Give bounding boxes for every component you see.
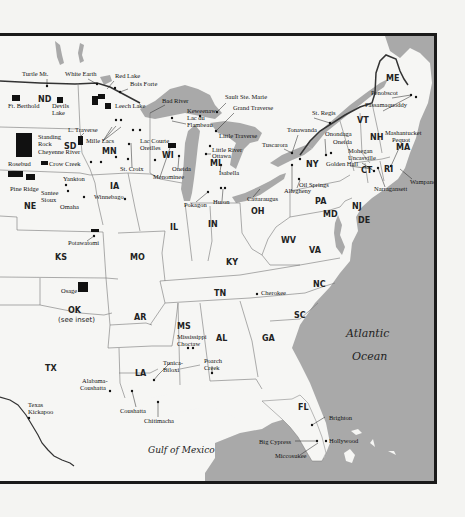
- site-label: Red Lake: [115, 72, 140, 79]
- site-label: Menominee: [153, 173, 184, 180]
- site-label: Bois Forte: [130, 80, 157, 87]
- site-label: Brighton: [329, 414, 353, 421]
- state-label-nj: NJ: [352, 202, 362, 211]
- site-label: Ottawa: [212, 152, 231, 159]
- site-label: Santee: [41, 189, 58, 196]
- site-label: Tonawanda: [287, 126, 317, 133]
- state-label-ny: NY: [306, 160, 319, 169]
- state-label-al: AL: [216, 334, 227, 343]
- site-label: Mille Lacs: [86, 137, 114, 144]
- state-label-il: IL: [170, 223, 178, 232]
- state-label-ky: KY: [226, 258, 238, 267]
- state-label-in: IN: [208, 220, 218, 229]
- site-label: Chitimacha: [144, 417, 174, 424]
- state-label-va: VA: [309, 246, 322, 255]
- site-label: Alabama-: [82, 377, 108, 384]
- site-label: Lac Courte: [140, 137, 169, 144]
- site-label: Big Cypress: [259, 438, 291, 445]
- state-label-wv: WV: [281, 236, 297, 245]
- atlantic-ocean-label-line2: Ocean: [352, 350, 387, 363]
- state-label-ar: AR: [134, 313, 146, 322]
- site-label: Pine Ridge: [10, 185, 39, 192]
- state-label-pa: PA: [315, 197, 327, 206]
- state-label-me: ME: [386, 74, 399, 83]
- site-label: Devils: [52, 102, 69, 109]
- site-label: Coushatta: [80, 384, 106, 391]
- state-label-tx: TX: [45, 364, 57, 373]
- state-label-sc: SC: [294, 311, 306, 320]
- state-label-nh: NH: [370, 133, 383, 142]
- site-label: Penobscot: [371, 89, 398, 96]
- site-label: Winnebago: [94, 193, 124, 200]
- site-label: Turtle Mt.: [22, 70, 49, 77]
- site-label: Miccosukee: [275, 452, 307, 459]
- site-label: Flambeau: [187, 121, 213, 128]
- site-label: Sioux: [41, 196, 57, 203]
- site-label: Mohegan: [348, 147, 373, 154]
- state-label-ri: RI: [384, 165, 393, 174]
- state-label-la: LA: [135, 369, 147, 378]
- site-label: Lac du: [187, 114, 206, 121]
- site-label: L. Traverse: [68, 126, 98, 133]
- gulf-of-mexico-label: Gulf of Mexico: [148, 445, 215, 455]
- site-label: Coushatta: [120, 407, 146, 414]
- state-label-ne: NE: [24, 202, 36, 211]
- site-label: Texas: [28, 401, 44, 408]
- site-label: Omaha: [60, 203, 79, 210]
- atlantic-ocean-label-line1: Atlantic: [345, 327, 389, 340]
- site-label: Grand Traverse: [233, 104, 273, 111]
- lake-winnipeg-south: [78, 43, 84, 63]
- site-label: Lake: [52, 109, 65, 116]
- site-label: Choctaw: [177, 340, 200, 347]
- site-label: Creek: [204, 364, 220, 371]
- site-label: Bad River: [162, 97, 189, 104]
- lake-of-woods: [55, 41, 64, 65]
- state-label-oh: OH: [251, 207, 265, 216]
- chesapeake-bay: [334, 215, 345, 255]
- state-label-ct: CT: [361, 166, 373, 175]
- site-label: Hollywood: [329, 437, 359, 444]
- state-label-mo: MO: [130, 253, 145, 262]
- site-label: Oneida: [172, 165, 191, 172]
- site-label: St. Regis: [312, 109, 336, 116]
- site-label: Narragansett: [374, 185, 407, 192]
- site-label: Rock: [38, 140, 52, 147]
- state-label-vt: VT: [357, 116, 369, 125]
- site-label: Pequot: [392, 136, 410, 143]
- state-label-mn: MN: [102, 147, 117, 156]
- site-label: Oreilles: [140, 144, 161, 151]
- state-label-mi: MI: [210, 159, 221, 168]
- state-label-wi: WI: [162, 151, 174, 160]
- site-label: Crow Creek: [49, 160, 81, 167]
- state-label-ma: MA: [396, 143, 411, 152]
- lake-michigan: [181, 125, 200, 201]
- site-label: Cheyenne River: [38, 148, 81, 155]
- upper-red-lake: [100, 75, 112, 85]
- reservation-areas: [8, 94, 176, 292]
- site-label: Mississippi: [177, 333, 207, 340]
- site-label: Biloxi: [163, 366, 179, 373]
- site-label: Cherokee: [261, 289, 286, 296]
- state-label-ok: OK: [68, 306, 82, 315]
- site-label: Keweenaw: [187, 107, 216, 114]
- site-label: Tuscarora: [262, 141, 288, 148]
- site-label: Standing: [38, 133, 62, 140]
- site-label: Potawatomi: [68, 239, 99, 246]
- site-label: Pokagon: [184, 201, 208, 208]
- site-label: Isabella: [219, 169, 239, 176]
- site-label: Little Traverse: [219, 132, 257, 139]
- site-label: Huron: [213, 198, 230, 205]
- state-label-de: DE: [358, 216, 370, 225]
- site-label: Poarch: [204, 357, 223, 364]
- site-label: White Earth: [65, 70, 97, 77]
- state-label-ia: IA: [110, 182, 120, 191]
- state-label-fl: FL: [298, 403, 309, 412]
- site-label: Ft. Berthold: [8, 102, 40, 109]
- site-label: Osage: [61, 287, 77, 294]
- site-label: Cattaraugus: [247, 195, 279, 202]
- state-label-ms: MS: [177, 322, 191, 331]
- site-label: Rosebud: [8, 160, 32, 167]
- state-sub-label: (see inset): [58, 316, 95, 324]
- site-label: Yankton: [63, 175, 85, 182]
- site-label: Allegheny: [284, 187, 312, 194]
